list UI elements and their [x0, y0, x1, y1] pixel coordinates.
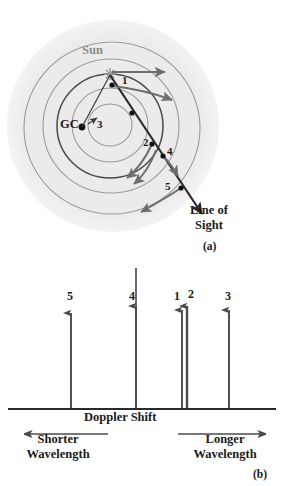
line-of-sight-label-line2: Sight [195, 218, 223, 232]
cloud-marker-5 [178, 185, 183, 190]
longer-wavelength-label-line2: Wavelength [193, 447, 256, 461]
galactic-disk [7, 20, 219, 232]
panel-a-galaxy-diagram [0, 0, 283, 260]
panel-a-caption: (a) [203, 240, 216, 252]
shorter-wavelength-label: Shorter Wavelength [3, 432, 113, 462]
galactic-center-label: GC [60, 118, 79, 131]
line-of-sight-label: Line of Sight [190, 203, 228, 233]
sun-label: Sun [82, 44, 103, 57]
cloud-number-1: 1 [122, 74, 128, 86]
longer-wavelength-label-line1: Longer [206, 432, 245, 446]
spectrum-label-4: 4 [129, 289, 135, 304]
sun-marker [104, 68, 116, 80]
cloud-number-4: 4 [167, 145, 173, 157]
line-of-sight-label-line1: Line of [190, 203, 228, 217]
cloud-number-2: 2 [143, 136, 149, 148]
spectrum-label-3: 3 [225, 289, 231, 304]
spectrum-label-2: 2 [188, 287, 194, 302]
shorter-wavelength-label-line2: Wavelength [26, 447, 89, 461]
spectrum-label-1: 1 [174, 289, 180, 304]
cloud-marker-4 [160, 153, 165, 158]
cloud-number-5: 5 [165, 180, 171, 192]
cloud-marker-3 [129, 110, 134, 115]
cloud-marker-1 [109, 82, 114, 87]
figure-container: Sun GC Line of Sight (a) 1 2 3 4 5 [0, 0, 283, 486]
shorter-wavelength-label-line1: Shorter [38, 432, 79, 446]
cloud-marker-2 [149, 141, 154, 146]
panel-b-caption: (b) [253, 468, 267, 480]
longer-wavelength-label: Longer Wavelength [170, 432, 280, 462]
doppler-shift-axis-label: Doppler Shift [84, 411, 156, 424]
cloud-number-3: 3 [97, 118, 103, 130]
spectrum-label-5: 5 [67, 289, 73, 304]
